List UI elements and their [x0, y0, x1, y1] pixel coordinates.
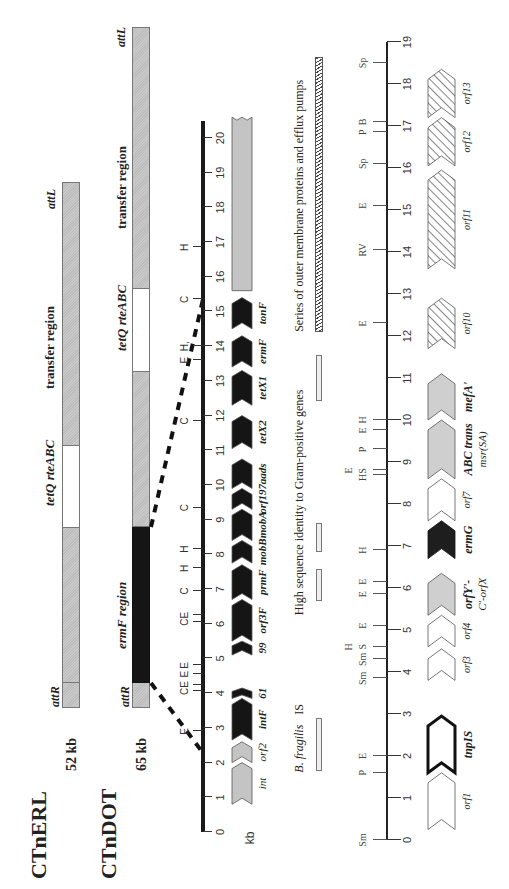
lower-gene-label: orf4 [461, 623, 472, 640]
lower-gene-label: orf12 [461, 131, 472, 153]
lower-gene-label: tnpIS [461, 731, 476, 758]
lower-gene-arrow [428, 374, 455, 420]
lower-gene-label-line1: orfY'- [461, 578, 476, 611]
lower-gene-label-line1: orf13 [461, 83, 472, 105]
lower-gene-arrow [428, 773, 455, 830]
lower-gene-label: mefA' [461, 382, 476, 412]
lower-gene-arrow [428, 118, 455, 166]
lower-gene-label: ABC transmsr(SA) [461, 423, 488, 475]
lower-gene-label-line1: orf7 [461, 491, 472, 508]
lower-gene-label-line1: ermG [461, 526, 476, 554]
lower-gene-label-line1: tnpIS [461, 731, 476, 758]
lower-gene-arrow [428, 649, 455, 681]
lower-gene-label-line1: mefA' [461, 382, 476, 412]
lower-gene-label-line1: orf10 [461, 313, 472, 335]
gene-map-figure: CTnERL attR 52 kb tetQ rteABC transfer r… [0, 0, 509, 889]
lower-gene-arrow [428, 69, 455, 117]
lower-gene-label: ermG [461, 526, 476, 554]
lower-gene-label: orf11 [461, 209, 472, 230]
lower-gene-label-line1: orf3 [461, 656, 472, 673]
lower-gene-label: orf7 [461, 491, 472, 508]
lower-gene-arrow [428, 479, 455, 521]
lower-gene-label-line1: orf4 [461, 623, 472, 640]
lower-gene-label: orf1 [461, 793, 472, 810]
lower-gene-label-line1: orf11 [461, 209, 472, 230]
lower-gene-arrow [428, 170, 455, 269]
lower-gene-label-line1: ABC trans [461, 423, 476, 475]
lower-gene-label-line2: msr(SA) [476, 423, 488, 475]
lower-gene-label-line1: orf1 [461, 793, 472, 810]
lower-gene-arrow [428, 573, 455, 615]
lower-gene-arrow [428, 420, 455, 479]
lower-gene-arrow [428, 521, 455, 559]
lower-gene-arrow [428, 298, 455, 348]
lower-gene-arrow [428, 716, 455, 773]
lower-gene-label: orf3 [461, 656, 472, 673]
lower-gene-label: orfY'-C'-orfX [461, 578, 488, 611]
lower-gene-label: orf13 [461, 83, 472, 105]
lower-gene-label-line2: C'-orfX [476, 578, 488, 611]
lower-gene-arrow [428, 615, 455, 647]
lower-gene-label: orf10 [461, 313, 472, 335]
lower-gene-label-line1: orf12 [461, 131, 472, 153]
